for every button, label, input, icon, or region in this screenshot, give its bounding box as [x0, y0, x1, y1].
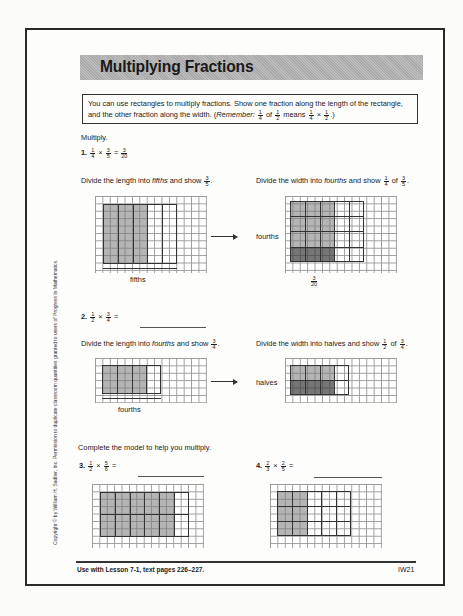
- title-banner: Multiplying Fractions: [80, 55, 423, 80]
- instruction-1-left: Divide the length into fifths and show 3…: [81, 176, 213, 187]
- result-fraction: 320: [310, 276, 318, 287]
- grid-3: [92, 484, 204, 548]
- problem-4: 4. 23 × 25 =: [256, 461, 293, 472]
- of-text: of: [266, 110, 272, 119]
- fraction: 14: [258, 110, 263, 121]
- grid-2-left: [95, 358, 207, 403]
- arrow-icon: [211, 236, 237, 237]
- section-label-multiply: Multiply.: [81, 133, 108, 142]
- grid-1-left: [95, 196, 207, 273]
- footer-divider: [76, 561, 416, 563]
- closing: .): [330, 110, 335, 119]
- times-sign: ×: [317, 110, 321, 119]
- section-label-complete: Complete the model to help you multiply.: [78, 443, 211, 452]
- fraction: 12: [275, 110, 280, 121]
- instruction-2-left: Divide the length into fourths and show …: [81, 339, 220, 350]
- answer-blank-2[interactable]: [140, 327, 206, 328]
- label-halves: halves: [256, 378, 277, 387]
- label-fourths-2: fourths: [118, 405, 141, 414]
- means-text: means: [283, 110, 305, 119]
- instruction-1-right: Divide the width into fourths and show 1…: [256, 176, 409, 187]
- arrow-icon: [211, 381, 237, 382]
- remember-label: Remember:: [216, 110, 255, 119]
- answer-blank-4[interactable]: [314, 477, 382, 478]
- instruction-2-right: Divide the width into halves and show 12…: [256, 339, 408, 350]
- copyright-notice: Copyright © by William H. Sadlier, Inc. …: [52, 260, 58, 545]
- problem-3: 3. 12 × 56 =: [79, 461, 116, 472]
- label-fifths: fifths: [130, 275, 146, 284]
- problem-2: 2. 12 × 34 =: [81, 312, 118, 323]
- intro-box: You can use rectangles to multiply fract…: [82, 94, 418, 124]
- label-fourths: fourths: [256, 232, 279, 241]
- grid-2-right: [285, 358, 397, 403]
- fraction: 12: [324, 110, 329, 121]
- answer-blank-3[interactable]: [138, 476, 204, 477]
- fraction: 14: [309, 110, 314, 121]
- page-number: IW21: [398, 566, 414, 573]
- grid-4: [270, 484, 382, 548]
- page-title: Multiplying Fractions: [100, 57, 253, 77]
- problem-1: 1. 14 × 35 = 320: [81, 148, 128, 159]
- answer: 320: [121, 148, 127, 159]
- grid-1-right: [285, 196, 397, 273]
- footer-lesson: Use with Lesson 7-1, text pages 226–227.: [77, 566, 204, 573]
